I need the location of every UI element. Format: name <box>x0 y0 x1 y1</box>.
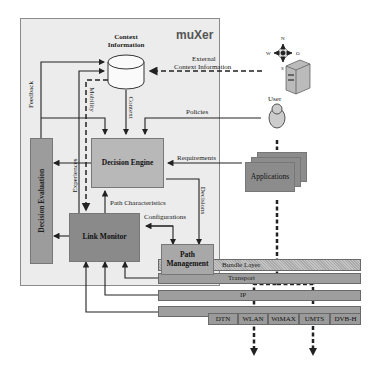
requirements-label: Requirements <box>177 155 216 162</box>
decision-evaluation-block: Decision Evaluation <box>30 138 53 264</box>
decisions-label: Decisions <box>199 187 206 215</box>
muxer-architecture-diagram: muXer <box>0 0 377 369</box>
ip-layer-label: IP <box>240 292 246 299</box>
experiences-label: Experiences <box>72 158 79 192</box>
decision-evaluation-label: Decision Evaluation <box>38 169 46 233</box>
external-context-label-line2: Context Information <box>174 64 231 71</box>
compass-icon <box>274 44 292 62</box>
network-dvb-h: DVB-H <box>330 313 361 325</box>
configurations-label: Configurations <box>144 214 186 221</box>
context-information-label: Context Information <box>104 33 148 50</box>
link-monitor-label: Link Monitor <box>83 233 127 242</box>
path-management-block: Path Management <box>161 244 214 275</box>
compass-n: N <box>281 36 285 41</box>
server-icon <box>286 60 310 94</box>
applications-block: Applications <box>245 162 295 192</box>
context-label: Context <box>127 96 134 118</box>
user-icon <box>269 104 285 128</box>
link-monitor-block: Link Monitor <box>69 213 140 262</box>
mobility-label: Mobility <box>88 87 95 112</box>
transport-layer-label: Transport <box>228 275 255 282</box>
applications-label: Applications <box>251 173 289 182</box>
network-umts: UMTS <box>299 313 330 325</box>
database-cylinder-icon <box>108 55 144 89</box>
compass-w: W <box>266 51 271 56</box>
user-label: User <box>268 96 281 103</box>
policies-label: Policies <box>186 109 208 116</box>
feedback-label: Feedback <box>28 81 35 108</box>
decision-engine-label: Decision Engine <box>102 159 153 168</box>
path-characteristics-label: Path Characteristics <box>110 200 166 207</box>
bundle-layer-label: Bundle Layer <box>222 262 260 269</box>
network-dtn: DTN <box>208 313 238 325</box>
decision-engine-block: Decision Engine <box>91 138 164 188</box>
compass-o: O <box>296 51 300 56</box>
external-context-label-line1: External <box>192 56 216 63</box>
path-management-label: Path Management <box>162 251 213 268</box>
network-wlan: WLAN <box>238 313 268 325</box>
ip-layer <box>158 290 361 301</box>
network-wimax: WiMAX <box>268 313 299 325</box>
compass-s: S <box>281 66 284 71</box>
